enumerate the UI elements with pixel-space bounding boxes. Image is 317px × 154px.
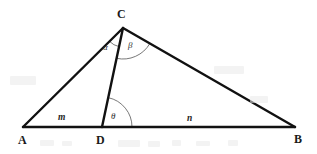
angle-label-alpha: α bbox=[103, 43, 108, 52]
segment-CB bbox=[123, 28, 295, 127]
geometry-figure: C A D B m n α β θ bbox=[0, 0, 317, 154]
angle-arc-beta bbox=[117, 43, 150, 59]
vertex-label-C: C bbox=[117, 8, 126, 20]
angle-label-beta: β bbox=[128, 41, 132, 50]
vertex-label-B: B bbox=[294, 133, 302, 145]
vertex-label-D: D bbox=[96, 134, 105, 146]
triangle-diagram-canvas bbox=[0, 0, 317, 154]
side-label-m: m bbox=[58, 113, 65, 123]
angle-label-theta: θ bbox=[111, 112, 115, 121]
segment-AC bbox=[23, 28, 123, 127]
vertex-label-A: A bbox=[18, 134, 27, 146]
side-label-n: n bbox=[187, 114, 192, 124]
angle-arc-alpha bbox=[109, 41, 119, 46]
